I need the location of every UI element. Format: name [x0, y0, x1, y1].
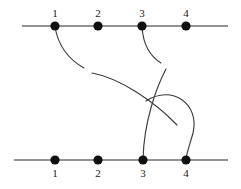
bottom-node-3[interactable]: [138, 155, 147, 164]
bottom-node-label-1: 1: [52, 167, 58, 179]
strand-arc-long-upper-left-to-lower-right: [92, 73, 177, 125]
top-node-3[interactable]: [137, 21, 146, 30]
bottom-node-1[interactable]: [50, 155, 59, 164]
top-node-label-2: 2: [95, 7, 101, 19]
axis-group: [14, 26, 228, 160]
bottom-label-group: 1 2 3 4: [52, 167, 189, 179]
top-label-group: 1 2 3 4: [52, 7, 189, 19]
top-node-4[interactable]: [181, 21, 190, 30]
top-node-2[interactable]: [93, 21, 102, 30]
bottom-node-2[interactable]: [93, 155, 102, 164]
strand-arc-midright-to-bottom3: [143, 69, 166, 159]
strand-arc-top3-hook: [142, 27, 161, 63]
tangle-canvas: 1 2 3 4 1 2 3 4: [0, 0, 241, 189]
bottom-node-4[interactable]: [181, 155, 190, 164]
bottom-node-label-4: 4: [183, 167, 189, 179]
strand-arc-top1-hook: [55, 27, 84, 68]
top-node-label-3: 3: [139, 7, 145, 19]
top-node-label-4: 4: [183, 7, 189, 19]
bottom-node-label-3: 3: [140, 167, 146, 179]
strand-group: [55, 27, 194, 159]
tangle-diagram: 1 2 3 4 1 2 3 4: [0, 0, 241, 189]
top-node-1[interactable]: [50, 21, 59, 30]
bottom-node-label-2: 2: [95, 167, 101, 179]
top-node-label-1: 1: [52, 7, 58, 19]
